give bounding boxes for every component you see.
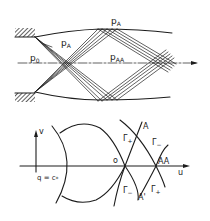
label-p-A-top: pA (111, 16, 122, 27)
label-gamma-minus-upper: Γ− (152, 138, 162, 148)
u-axis-arrow-icon (183, 164, 190, 168)
label-gamma-plus-lower: Γ+ (151, 185, 161, 195)
label-p-0: p0 (30, 53, 40, 64)
flow-arrow-icon (191, 61, 198, 65)
label-gamma-minus-lower: Γ− (123, 186, 133, 196)
v-axis-arrow-icon (34, 130, 38, 137)
sonic-circle-arc (52, 126, 67, 203)
label-AA: AA (158, 157, 170, 166)
label-o: o (113, 156, 118, 165)
label-gamma-plus-upper: Γ+ (123, 134, 133, 144)
lower-expansion-fan (35, 29, 117, 92)
jet-diagram-figure: pA pA p0 pAA v q = c* o A (0, 0, 210, 221)
label-p-A-fan: pA (61, 38, 72, 49)
upper-nozzle-wall (15, 28, 35, 37)
label-A: A (143, 122, 149, 131)
upper-expansion-fan (35, 37, 117, 101)
hodograph-panel: v q = c* o AA u A A' Γ+ Γ− Γ− Γ+ (20, 120, 190, 206)
label-v: v (39, 127, 44, 136)
label-A-prime: A' (138, 193, 146, 202)
label-u: u (178, 168, 183, 177)
label-p-AA: pAA (110, 52, 125, 63)
lower-nozzle-wall (15, 93, 35, 102)
nozzle-flow-panel: pA pA p0 pAA (15, 16, 198, 102)
label-q-c-star: q = c* (37, 174, 59, 182)
